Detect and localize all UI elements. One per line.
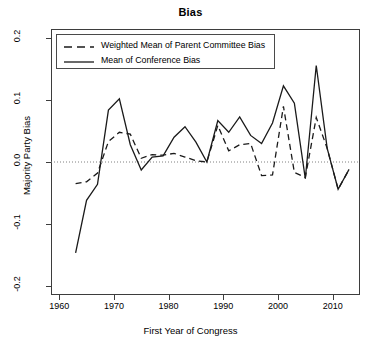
x-tick-label: 1980 bbox=[149, 301, 189, 311]
figure-container: Bias Weighted Mean of Parent Committee B… bbox=[0, 0, 381, 354]
y-tick-label: -0.2 bbox=[12, 267, 22, 301]
legend-item-weighted-mean-parent-committee: Weighted Mean of Parent Committee Bias bbox=[62, 37, 265, 52]
series-line-1 bbox=[76, 66, 349, 253]
x-tick-mark bbox=[59, 295, 60, 300]
x-tick-mark bbox=[223, 295, 224, 300]
x-tick-label: 2010 bbox=[313, 301, 353, 311]
x-tick-mark bbox=[333, 295, 334, 300]
y-tick-mark bbox=[46, 224, 51, 225]
y-tick-mark bbox=[46, 162, 51, 163]
x-tick-label: 1990 bbox=[203, 301, 243, 311]
x-tick-mark bbox=[278, 295, 279, 300]
legend-label-0: Weighted Mean of Parent Committee Bias bbox=[96, 40, 265, 50]
x-tick-label: 2000 bbox=[258, 301, 298, 311]
legend-item-mean-conference-bias: Mean of Conference Bias bbox=[62, 52, 200, 67]
y-tick-mark bbox=[46, 286, 51, 287]
x-tick-label: 1970 bbox=[94, 301, 134, 311]
chart-legend: Weighted Mean of Parent Committee Bias M… bbox=[56, 34, 275, 69]
x-axis-title: First Year of Congress bbox=[0, 325, 381, 336]
y-tick-mark bbox=[46, 100, 51, 101]
x-tick-label: 1960 bbox=[39, 301, 79, 311]
caption-fragment bbox=[0, 344, 381, 354]
chart-title: Bias bbox=[0, 6, 381, 18]
x-tick-mark bbox=[169, 295, 170, 300]
y-tick-mark bbox=[46, 38, 51, 39]
y-axis-title: Majority Party Bias bbox=[21, 76, 32, 236]
legend-key-solid-icon bbox=[62, 54, 96, 66]
x-tick-mark bbox=[114, 295, 115, 300]
legend-key-dashed-icon bbox=[62, 39, 96, 51]
legend-label-1: Mean of Conference Bias bbox=[96, 55, 200, 65]
y-tick-label: 0.2 bbox=[12, 19, 22, 53]
